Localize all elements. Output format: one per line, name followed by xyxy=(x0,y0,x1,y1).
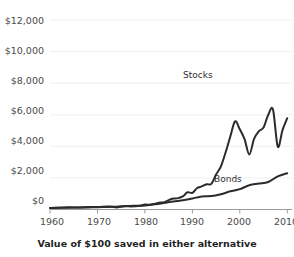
gridlines xyxy=(50,20,292,178)
y-axis-tick-label: $10,000 xyxy=(0,45,44,56)
y-axis-tick-label: $0 xyxy=(0,195,44,206)
series-label-bonds: Bonds xyxy=(214,174,242,184)
y-axis-tick-label: $8,000 xyxy=(0,75,44,86)
y-axis-tick-label: $6,000 xyxy=(0,105,44,116)
axis-ticks xyxy=(50,210,287,214)
y-axis-tick-label: $2,000 xyxy=(0,165,44,176)
x-axis-tick-label: 2000 xyxy=(219,216,259,227)
series-label-stocks: Stocks xyxy=(183,70,213,80)
x-axis-tick-label: 1960 xyxy=(32,216,72,227)
chart-container: $12,000$10,000$8,000$6,000$4,000$2,000$0… xyxy=(0,0,294,257)
x-axis-tick-label: 1970 xyxy=(79,216,119,227)
x-axis-title: Value of $100 saved in either alternativ… xyxy=(0,238,294,249)
data-series-lines xyxy=(50,108,287,208)
series-line-stocks xyxy=(50,108,287,208)
y-axis-tick-label: $12,000 xyxy=(0,15,44,26)
x-axis-tick-label: 2010 xyxy=(266,216,294,227)
y-axis-tick-label: $4,000 xyxy=(0,135,44,146)
x-axis-tick-label: 1990 xyxy=(172,216,212,227)
x-axis-tick-label: 1980 xyxy=(126,216,166,227)
